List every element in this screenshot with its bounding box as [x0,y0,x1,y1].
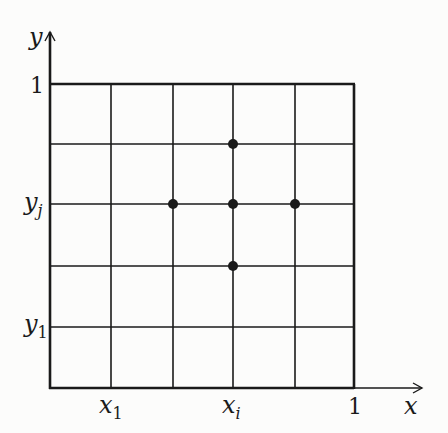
grid-diagram: y 1 yj y1 x1 xi 1 x [0,0,448,433]
y-axis-label: y [28,23,43,51]
x-axis-label: x [404,392,418,420]
x-tick-label-i: xi [222,391,241,423]
grid-lines [50,84,354,388]
stencil-point-north [228,139,238,149]
x-tick-i-sub: i [236,404,241,423]
y-tick-1-sub: 1 [38,323,48,342]
stencil-point-south [228,261,238,271]
x-tick-i-main: x [222,391,236,419]
x-end-tick-label: 1 [348,394,362,419]
y-end-tick-label: 1 [30,73,44,98]
y-tick-1-main: y [23,310,38,338]
x-tick-1-sub: 1 [113,404,123,423]
stencil-point-west [168,199,178,209]
y-tick-j-main: y [23,188,38,216]
x-tick-label-1: x1 [99,391,123,423]
stencil-point-east [290,199,300,209]
stencil-points [168,139,300,271]
y-tick-label-1: y1 [23,310,48,342]
x-tick-1-main: x [99,391,113,419]
y-tick-label-j: yj [23,188,43,220]
stencil-point-center [228,199,238,209]
boundary [49,84,355,389]
